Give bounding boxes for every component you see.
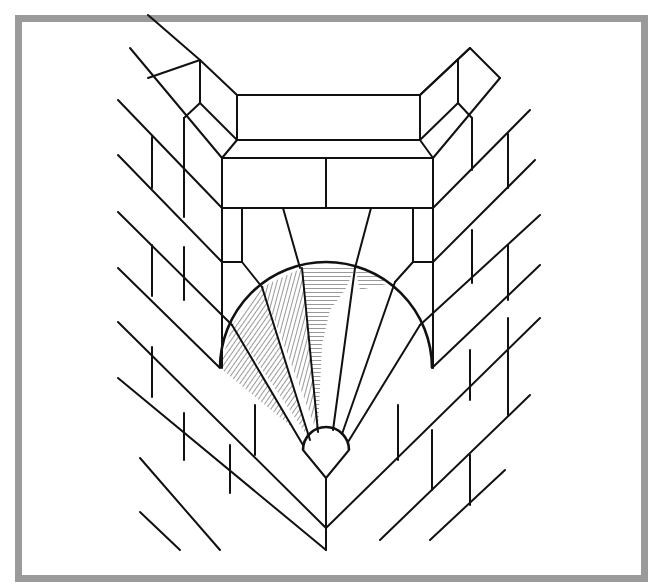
right-brick-wall (326, 78, 540, 540)
header-bricks (222, 158, 433, 287)
lintel-block (148, 15, 500, 158)
corner-arris (303, 450, 349, 550)
niche-diagram (0, 0, 655, 585)
